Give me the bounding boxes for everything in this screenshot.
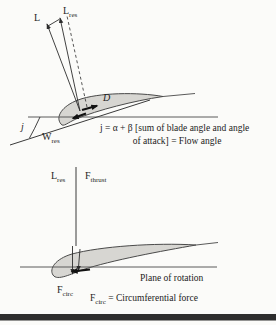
- thrust-label: Fthrust: [85, 170, 107, 184]
- flow-angle-caption-line1: j = α + β [sum of blade angle and angle: [99, 123, 249, 133]
- flow-angle-arc: [30, 117, 41, 138]
- lift-vector: [47, 24, 80, 111]
- circ-force-caption: Fcirc = Circumferential force: [90, 293, 198, 306]
- figure-page: L Lres D j Wres j = α + β [sum of blade …: [0, 0, 276, 325]
- blade-forces-diagram: L Lres D j Wres j = α + β [sum of blade …: [0, 0, 276, 325]
- flow-angle-label: j: [19, 121, 24, 132]
- page-bottom-rule: [0, 314, 276, 321]
- plane-of-rotation-label: Plane of rotation: [140, 273, 204, 283]
- chord-extension-line-top: [163, 94, 195, 97]
- flow-angle-caption-line2: of attack] = Flow angle: [133, 136, 222, 146]
- resultant-lift-vector: [60, 18, 80, 111]
- drag-label: D: [102, 92, 111, 103]
- lift-res-label-bottom: Lres: [51, 170, 66, 184]
- circ-force-label: Fcirc: [57, 284, 73, 298]
- lift-res-label: Lres: [63, 5, 78, 19]
- relative-wind-label: Wres: [42, 131, 60, 145]
- lift-label: L: [34, 12, 40, 23]
- construction-dashed-line: [67, 16, 87, 107]
- tip-connector-line: [48, 20, 59, 27]
- top-blade-section-diagram: L Lres D j Wres j = α + β [sum of blade …: [10, 5, 249, 146]
- chord-extension-line-bottom: [196, 243, 218, 246]
- airfoil-top: [59, 94, 163, 126]
- bottom-force-resolution-diagram: Lres Fthrust Fcirc Plane of rotation Fci…: [20, 167, 218, 306]
